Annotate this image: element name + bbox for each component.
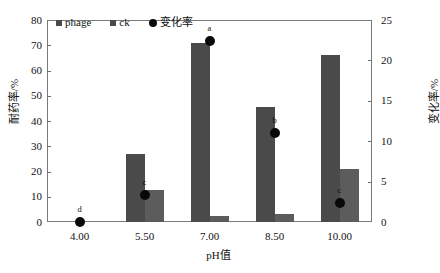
x-axis-tick-label: 5.50 (115, 231, 175, 242)
significance-label: c (135, 178, 155, 187)
chart-legend: phage ck 变化率 (56, 17, 193, 28)
bar-ck (340, 169, 359, 222)
y-tick-mark-left (47, 197, 51, 198)
bar-ck (275, 214, 294, 222)
legend-item-phage: phage (56, 17, 91, 28)
bar-phage (191, 43, 210, 222)
y-axis-label-right: 变化率/% (429, 60, 440, 144)
legend-label-ck: ck (119, 17, 129, 28)
x-axis-label: pH值 (0, 249, 437, 261)
square-icon (110, 20, 116, 26)
y-tick-mark-right (368, 101, 372, 102)
legend-label-phage: phage (65, 17, 91, 28)
x-axis-tick-label: 10.00 (310, 231, 370, 242)
y-tick-mark-right (368, 141, 372, 142)
y-tick-mark-right (368, 182, 372, 183)
y-tick-mark-left (47, 172, 51, 173)
y-tick-mark-left (47, 45, 51, 46)
y-axis-tick-right: 20 (381, 55, 403, 66)
data-point-rate (270, 128, 280, 138)
y-axis-tick-left: 10 (18, 191, 42, 202)
y-axis-tick-left: 70 (18, 40, 42, 51)
circle-icon (149, 19, 157, 27)
bar-ck (210, 216, 229, 222)
y-axis-tick-left: 80 (18, 15, 42, 26)
significance-label: c (330, 186, 350, 195)
significance-label: d (70, 205, 90, 214)
y-tick-mark-left (47, 71, 51, 72)
y-axis-tick-left: 30 (18, 141, 42, 152)
x-axis-tick-label: 8.50 (245, 231, 305, 242)
legend-item-rate: 变化率 (149, 17, 193, 28)
data-point-rate (75, 217, 85, 227)
legend-label-rate: 变化率 (160, 17, 193, 28)
bar-phage (126, 154, 145, 222)
y-tick-mark-left (47, 96, 51, 97)
significance-label: b (265, 116, 285, 125)
y-axis-tick-left: 0 (18, 217, 42, 228)
y-axis-tick-left: 60 (18, 65, 42, 76)
data-point-rate (140, 190, 150, 200)
data-point-rate (205, 36, 215, 46)
y-axis-tick-left: 50 (18, 90, 42, 101)
legend-item-ck: ck (110, 17, 129, 28)
y-axis-tick-left: 20 (18, 166, 42, 177)
bar-phage (321, 55, 340, 222)
x-axis-tick-label: 7.00 (180, 231, 240, 242)
y-tick-mark-left (47, 146, 51, 147)
y-axis-tick-right: 0 (381, 217, 403, 228)
y-tick-mark-left (47, 121, 51, 122)
y-tick-mark-right (368, 60, 372, 61)
significance-label: a (200, 24, 220, 33)
square-icon (56, 20, 62, 26)
y-axis-tick-right: 15 (381, 95, 403, 106)
y-axis-tick-left: 40 (18, 116, 42, 127)
y-axis-tick-right: 25 (381, 15, 403, 26)
x-axis-tick-label: 4.00 (50, 231, 110, 242)
y-axis-tick-right: 5 (381, 176, 403, 187)
data-point-rate (335, 198, 345, 208)
y-axis-tick-right: 10 (381, 136, 403, 147)
